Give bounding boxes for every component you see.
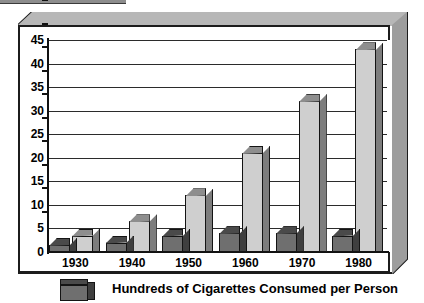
bar-face xyxy=(219,233,240,252)
bar-top-cap xyxy=(106,236,127,244)
bar-face xyxy=(162,236,183,252)
bar-group-1970 xyxy=(276,40,333,252)
bar-group-1940 xyxy=(106,40,163,252)
plaque-top-bevel xyxy=(18,12,408,26)
x-tick-label-1950: 1950 xyxy=(157,256,221,270)
bar-1980-dark xyxy=(332,236,353,252)
y-tick-label-10: 10 xyxy=(10,198,44,212)
bar-face xyxy=(332,236,353,252)
bar-group-1930 xyxy=(49,40,106,252)
bar-top-cap xyxy=(185,188,206,196)
bar-top-cap xyxy=(219,226,240,234)
y-tick-label-35: 35 xyxy=(10,80,44,94)
bar-top-cap xyxy=(242,146,263,154)
bar-side-face xyxy=(319,94,327,252)
bar-top-cap xyxy=(162,229,183,237)
y-tick-label-5: 5 xyxy=(10,221,44,235)
y-tick-label-20: 20 xyxy=(10,151,44,165)
bar-1980-light xyxy=(355,49,376,252)
bar-face xyxy=(49,245,70,252)
bar-1930-dark xyxy=(49,245,70,252)
y-tick-mark-45 xyxy=(42,0,48,1)
y-tick-label-25: 25 xyxy=(10,127,44,141)
legend-label: Hundreds of Cigarettes Consumed per Pers… xyxy=(112,281,398,296)
plaque-right-bevel xyxy=(392,12,408,274)
bar-top-cap xyxy=(72,229,93,237)
bar-top-cap xyxy=(129,214,150,222)
y-tick-mark-15 xyxy=(42,140,48,142)
y-tick-mark-35 xyxy=(42,46,48,48)
x-tick-label-1970: 1970 xyxy=(270,256,334,270)
bar-side-face xyxy=(149,214,157,252)
y-tick-mark-5 xyxy=(42,187,48,189)
bar-top-cap xyxy=(276,226,297,234)
y-tick-label-40: 40 xyxy=(10,57,44,71)
bar-face xyxy=(106,243,127,252)
bar-face xyxy=(276,233,297,252)
bar-top-cap xyxy=(332,229,353,237)
bar-side-face xyxy=(262,146,270,252)
y-tick-label-15: 15 xyxy=(10,174,44,188)
y-tick-mark-0 xyxy=(42,211,48,213)
y-tick-label-30: 30 xyxy=(10,104,44,118)
y-tick-mark-20 xyxy=(42,117,48,119)
bar-group-1950 xyxy=(162,40,219,252)
top-clipped-strip xyxy=(0,0,424,5)
y-tick-label-45: 45 xyxy=(10,33,44,47)
y-tick-mark-25 xyxy=(42,93,48,95)
y-tick-mark-40 xyxy=(42,23,48,25)
y-tick-label-0: 0 xyxy=(10,245,44,259)
bar-side-face xyxy=(92,229,100,252)
chart-legend: Hundreds of Cigarettes Consumed per Pers… xyxy=(60,277,420,303)
bar-1950-dark xyxy=(162,236,183,252)
x-tick-label-1930: 1930 xyxy=(43,256,107,270)
y-tick-mark-10 xyxy=(42,164,48,166)
bar-1940-dark xyxy=(106,243,127,252)
bar-side-face xyxy=(205,188,213,252)
bar-face xyxy=(355,49,376,252)
x-tick-label-1940: 1940 xyxy=(100,256,164,270)
bar-1970-dark xyxy=(276,233,297,252)
bar-top-cap xyxy=(299,94,320,102)
y-axis-tick-labels: 051015202530354045 xyxy=(6,40,44,252)
x-tick-label-1980: 1980 xyxy=(327,256,391,270)
bar-top-cap xyxy=(355,42,376,50)
x-tick-label-1960: 1960 xyxy=(213,256,277,270)
y-tick-mark-30 xyxy=(42,70,48,72)
bar-group-1980 xyxy=(332,40,389,252)
bar-group-1960 xyxy=(219,40,276,252)
legend-swatch-dark-cube-icon xyxy=(60,279,96,301)
bar-top-cap xyxy=(49,238,70,246)
bar-1960-dark xyxy=(219,233,240,252)
bar-side-face xyxy=(375,42,383,252)
